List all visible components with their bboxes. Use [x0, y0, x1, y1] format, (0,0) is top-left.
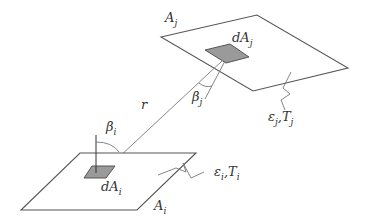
plane-aj [161, 15, 348, 91]
surface-j [161, 15, 348, 110]
arc-beta-j [199, 83, 212, 87]
label-beta-i: βi [105, 119, 117, 137]
view-factor-diagram: Aj dAj βj εj,Tj r βi dAi εi,Ti Ai [0, 0, 367, 223]
arc-beta-i [96, 142, 119, 152]
label-aj: Aj [164, 10, 177, 28]
label-r: r [141, 97, 148, 112]
label-beta-j: βj [191, 89, 203, 107]
label-ai: Ai [153, 198, 166, 216]
label-eps-t-j: εj,Tj [268, 109, 294, 127]
label-eps-t-i: εi,Ti [214, 164, 240, 182]
